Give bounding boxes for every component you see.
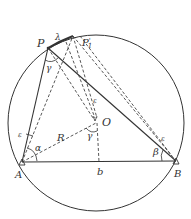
angle-arc-beta xyxy=(161,150,163,161)
label-O: O xyxy=(102,116,111,129)
angle-tick-left xyxy=(26,134,33,136)
dashed-P-O xyxy=(48,48,93,118)
label-P: P xyxy=(36,37,45,50)
label-beta: β xyxy=(152,146,159,157)
dashed-P1-O-a xyxy=(66,42,95,118)
label-R: R xyxy=(56,132,65,143)
dashed-A-P1 xyxy=(22,36,73,162)
label-alpha: α xyxy=(35,143,41,153)
label-epsilon-left: ε xyxy=(18,131,22,139)
dashed-P1prime-B xyxy=(80,36,172,156)
dashed-O-b xyxy=(97,123,99,162)
label-gamma-top: γ xyxy=(46,63,52,73)
side-PB xyxy=(48,48,176,161)
label-b: b xyxy=(97,166,103,177)
label-gamma-center: γ xyxy=(87,131,93,141)
point-P xyxy=(47,47,50,50)
label-B: B xyxy=(173,168,181,179)
label-epsilon-right: ε xyxy=(161,135,165,143)
label-epsilon-mid: ε xyxy=(93,97,97,105)
side-AB xyxy=(22,161,176,162)
circumcircle xyxy=(8,35,184,211)
geometry-diagram: P λ P'1 γ ε O γ R ε α A b ε β B xyxy=(0,0,191,219)
label-A: A xyxy=(14,169,22,180)
dashed-P1-O-b xyxy=(73,36,97,118)
label-lambda: λ xyxy=(54,32,61,42)
